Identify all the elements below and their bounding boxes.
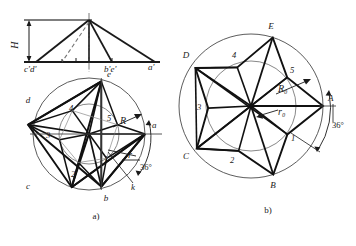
figure-a-label-b: b xyxy=(104,193,109,203)
figure-a-spoke-e xyxy=(89,81,101,134)
figure-a-label-R: R xyxy=(119,115,126,126)
figure-b-label-A: A xyxy=(327,93,334,103)
figure-a-label-a: a xyxy=(152,120,157,130)
elevation-hidden-edge xyxy=(62,22,89,62)
figure-b-label-E: E xyxy=(267,21,274,31)
figure-b-label-5: 5 xyxy=(290,65,294,75)
figure-b-label-R0: R₀ xyxy=(277,83,288,94)
figure-a-spoke-4 xyxy=(72,111,89,134)
front-view-elevation: H c'd' b'e' a' xyxy=(9,13,160,74)
figure-b-point1-leader xyxy=(291,133,320,152)
figure-a-label-3: 3 xyxy=(45,130,50,140)
figure-b-label-B: B xyxy=(270,180,276,190)
figure-a-label-1: 1 xyxy=(104,154,108,164)
figure-a-label-c: c xyxy=(26,181,30,191)
figure-b-label-C: C xyxy=(183,151,190,161)
figure-b-label-D: D xyxy=(182,50,190,60)
figure-b-spoke-3 xyxy=(208,106,251,108)
h-arrow-up-icon xyxy=(27,20,32,26)
figure-a-label-r: r xyxy=(128,149,132,160)
figure-b-chord-D4 xyxy=(195,67,237,68)
figure-b-label-3: 3 xyxy=(196,102,201,112)
caption-a: a) xyxy=(93,211,100,221)
height-label-H: H xyxy=(9,41,20,50)
figure-a-pentagram: R r 36° k e a b c d 5 1 2 3 4 xyxy=(26,69,162,203)
figure-a-spoke-2 xyxy=(78,134,89,163)
figure-a-label-e: e xyxy=(107,69,111,79)
label-cd-prime: c'd' xyxy=(24,64,37,74)
figure-a-label-5: 5 xyxy=(107,113,111,123)
figure-a-label-k: k xyxy=(131,182,136,192)
figure-a-link-a1 xyxy=(107,134,145,158)
figure-a-angle-arrow-top-icon xyxy=(146,120,152,126)
figure-a-spoke-5 xyxy=(89,125,118,134)
technical-drawing-figure: H c'd' b'e' a' xyxy=(0,0,356,246)
figure-b-label-1: 1 xyxy=(291,133,295,143)
figure-b-spoke-2 xyxy=(239,106,251,151)
figure-a-link-a5 xyxy=(118,125,146,134)
elevation-edge-right xyxy=(89,20,155,62)
figure-a-angle-label: 36° xyxy=(140,162,152,172)
figure-b-label-2: 2 xyxy=(230,155,235,165)
figure-b-angle-label: 36° xyxy=(332,120,344,130)
figure-a-label-d: d xyxy=(26,95,31,105)
drawing-canvas: H c'd' b'e' a' xyxy=(0,0,356,246)
label-a-prime: a' xyxy=(148,62,156,72)
figure-b-label-r0: r₀ xyxy=(278,106,286,117)
figure-b-label-4: 4 xyxy=(232,50,237,60)
figure-b-decagram: R₀ r₀ 36° E A B C D 5 1 2 3 4 xyxy=(179,21,344,190)
caption-b: b) xyxy=(264,205,272,215)
elevation-edge-left xyxy=(36,20,89,62)
